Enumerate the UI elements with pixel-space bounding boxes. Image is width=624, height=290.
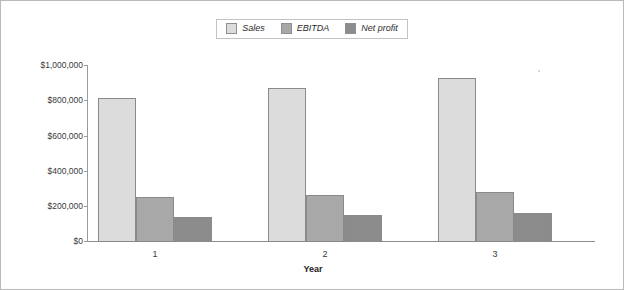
y-tick-label-200000: $200,000 <box>13 202 83 211</box>
bar-ebitda-year-2 <box>306 195 344 242</box>
bar-sales-year-3 <box>438 78 476 242</box>
bar-net-profit-year-2 <box>344 215 382 242</box>
x-axis-title: Year <box>1 265 624 274</box>
bar-sales-year-2 <box>268 88 306 242</box>
y-tick-label-400000: $400,000 <box>13 167 83 176</box>
x-tick-label-3: 3 <box>475 250 515 259</box>
x-tick-label-2: 2 <box>305 250 345 259</box>
print-speck <box>538 70 540 72</box>
bar-ebitda-year-1 <box>136 197 174 242</box>
y-tick-label-600000: $600,000 <box>13 132 83 141</box>
x-tick-label-1: 1 <box>135 250 175 259</box>
bar-sales-year-1 <box>98 98 136 242</box>
y-tick-label-800000: $800,000 <box>13 96 83 105</box>
bar-net-profit-year-3 <box>514 213 552 242</box>
y-tick-label-1000000: $1,000,000 <box>13 61 83 70</box>
y-tick-label-0: $0 <box>13 237 83 246</box>
bar-net-profit-year-1 <box>174 217 212 242</box>
chart-frame: Sales EBITDA Net profit $1,000,000 $800,… <box>0 0 624 290</box>
bar-ebitda-year-3 <box>476 192 514 242</box>
plot-area: $1,000,000 $800,000 $600,000 $400,000 $2… <box>1 1 624 290</box>
y-axis-line <box>87 65 88 242</box>
